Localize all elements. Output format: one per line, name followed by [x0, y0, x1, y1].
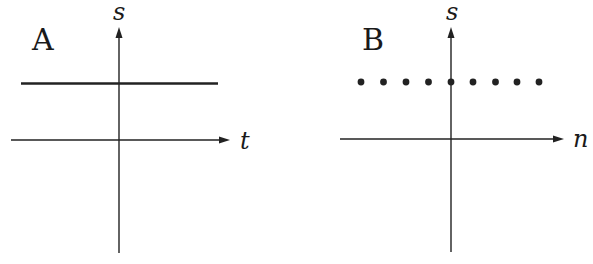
- panel-b-n-label: n: [573, 125, 588, 153]
- sample-dot: [358, 79, 365, 86]
- panel-b: B s n: [340, 0, 588, 252]
- panel-a-s-arrow-icon: [116, 27, 123, 38]
- sample-dot: [425, 79, 432, 86]
- panel-a: A s t: [11, 0, 250, 253]
- panel-b-label: B: [362, 22, 384, 57]
- panel-b-s-arrow-icon: [448, 27, 455, 38]
- panel-a-t-label: t: [240, 127, 250, 155]
- panel-b-samples: [358, 79, 543, 86]
- panel-b-n-arrow-icon: [553, 136, 564, 143]
- sample-dot: [492, 79, 499, 86]
- panel-a-label: A: [31, 22, 54, 57]
- sample-dot: [470, 79, 477, 86]
- sample-dot: [380, 79, 387, 86]
- sample-dot: [514, 79, 521, 86]
- panel-b-s-label: s: [446, 0, 458, 26]
- diagram-canvas: A s t B s n: [0, 0, 593, 264]
- panel-a-t-arrow-icon: [219, 137, 230, 144]
- sample-dot: [536, 79, 543, 86]
- panel-a-s-label: s: [113, 0, 125, 26]
- sample-dot: [403, 79, 410, 86]
- sample-dot: [448, 79, 455, 86]
